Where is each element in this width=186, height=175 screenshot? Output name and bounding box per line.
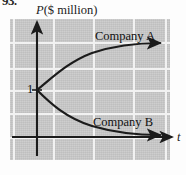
- x-axis-label: t: [177, 130, 180, 145]
- y-axis-label: P($ million): [36, 3, 97, 18]
- figure-container: 93. P($ million): [0, 0, 186, 175]
- gridline-vertical: [53, 19, 55, 160]
- series-label-company-b: Company B: [93, 115, 153, 130]
- gridline-vertical: [165, 19, 167, 160]
- figure-number: 93.: [2, 0, 17, 5]
- gridline-horizontal: [10, 90, 170, 92]
- tick-label-one: 1: [27, 82, 33, 97]
- gridline-horizontal: [10, 137, 170, 139]
- y-axis-variable: P: [36, 3, 44, 17]
- y-axis-units: ($ million): [44, 3, 98, 17]
- gridline-vertical: [13, 19, 15, 160]
- series-label-company-a: Company A: [95, 29, 155, 44]
- gridline-horizontal: [10, 68, 170, 70]
